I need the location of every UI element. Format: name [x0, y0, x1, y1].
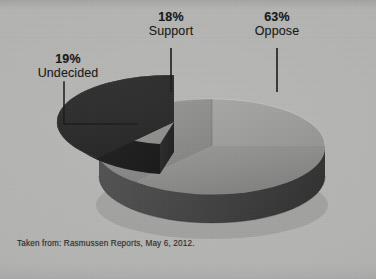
slice-label-support: 18% Support: [128, 10, 214, 39]
slice-label-oppose-value: 63%: [234, 10, 320, 24]
slice-label-undecided-value: 19%: [20, 52, 116, 66]
slice-label-oppose-name: Oppose: [234, 24, 320, 38]
pie-chart-figure: 19% Undecided 18% Support 63% Oppose Tak…: [0, 0, 376, 279]
slice-top-support: [212, 99, 325, 146]
source-caption: Taken from: Rasmussen Reports, May 6, 20…: [17, 239, 195, 248]
slice-label-undecided: 19% Undecided: [20, 52, 116, 81]
slice-label-undecided-name: Undecided: [20, 66, 116, 80]
slice-label-oppose: 63% Oppose: [234, 10, 320, 39]
slice-label-support-name: Support: [128, 24, 214, 38]
pie-chart-graphic: [0, 0, 376, 279]
slice-label-support-value: 18%: [128, 10, 214, 24]
